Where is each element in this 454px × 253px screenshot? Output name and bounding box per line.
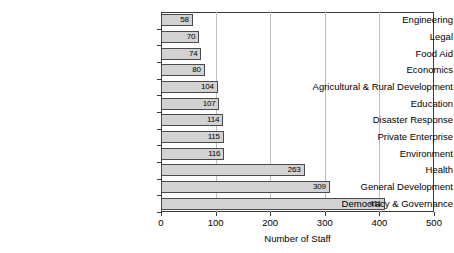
y-tick xyxy=(157,79,161,80)
bar-value-label: 114 xyxy=(207,116,219,124)
bar: 114 xyxy=(161,114,223,126)
bar-value-label: 104 xyxy=(201,83,214,91)
bar-value-label: 58 xyxy=(180,16,189,24)
x-tick xyxy=(379,212,380,216)
bar-value-label: 115 xyxy=(208,133,220,141)
category-label: Agricultural & Rural Development xyxy=(295,82,453,92)
y-tick xyxy=(157,95,161,96)
category-label: Environment xyxy=(295,149,453,159)
bar: 263 xyxy=(161,164,305,176)
y-tick xyxy=(157,62,161,63)
category-label: General Development xyxy=(295,182,453,192)
y-tick xyxy=(157,45,161,46)
bar: 104 xyxy=(161,81,218,93)
bar-value-label: 80 xyxy=(192,66,201,74)
bar: 115 xyxy=(161,131,224,143)
category-label: Disaster Response xyxy=(295,115,453,125)
y-tick xyxy=(157,162,161,163)
bar: 74 xyxy=(161,48,201,60)
bar: 116 xyxy=(161,148,224,160)
x-tick xyxy=(161,212,162,216)
bar: 80 xyxy=(161,64,205,76)
x-tick xyxy=(434,212,435,216)
x-tick xyxy=(325,212,326,216)
category-label: Education xyxy=(295,99,453,109)
x-tick-label: 500 xyxy=(414,217,454,228)
bar: 107 xyxy=(161,98,219,110)
x-tick-label: 0 xyxy=(141,217,181,228)
bar: 70 xyxy=(161,31,199,43)
x-tick-label: 400 xyxy=(359,217,399,228)
x-tick xyxy=(270,212,271,216)
category-label: Economics xyxy=(295,65,453,75)
bar: 58 xyxy=(161,14,193,26)
x-tick-label: 100 xyxy=(196,217,236,228)
category-label: Democracy & Governance xyxy=(295,199,453,209)
x-tick-label: 200 xyxy=(250,217,290,228)
y-tick xyxy=(157,145,161,146)
bar-value-label: 107 xyxy=(203,100,216,108)
y-tick xyxy=(157,29,161,30)
category-label: Legal xyxy=(295,32,453,42)
bar-value-label: 70 xyxy=(187,33,196,41)
x-axis-title: Number of Staff xyxy=(161,233,434,244)
category-label: Health xyxy=(295,165,453,175)
y-tick xyxy=(157,179,161,180)
y-tick xyxy=(157,112,161,113)
y-tick xyxy=(157,129,161,130)
category-label: Food Aid xyxy=(295,49,453,59)
bar-value-label: 74 xyxy=(189,50,198,58)
x-tick xyxy=(216,212,217,216)
category-label: Engineering xyxy=(295,15,453,25)
bar-value-label: 116 xyxy=(208,150,220,158)
category-label: Private Enterprise xyxy=(295,132,453,142)
x-tick-label: 300 xyxy=(305,217,345,228)
y-tick xyxy=(157,195,161,196)
